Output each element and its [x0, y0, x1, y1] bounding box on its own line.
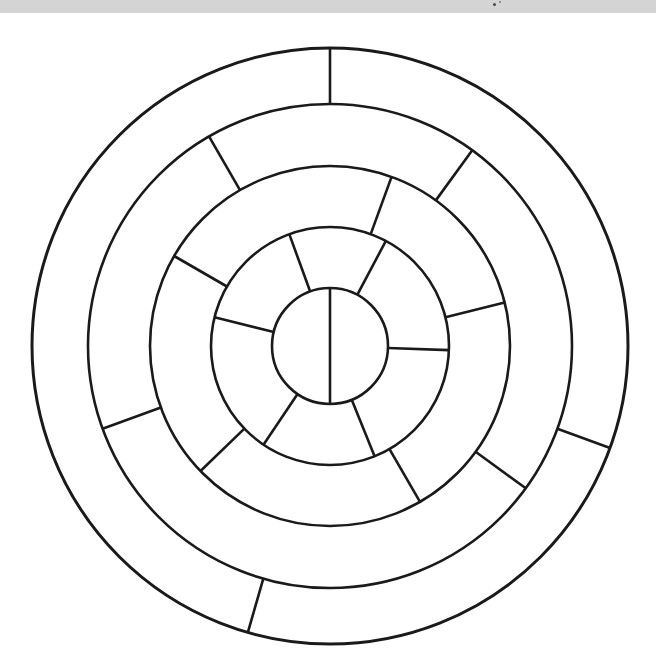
spoke-ring-4-2	[476, 452, 526, 488]
ring-diagram-container	[0, 13, 656, 667]
spoke-ring-3-1	[371, 177, 392, 234]
spoke-ring-2-6	[289, 234, 310, 291]
spoke-ring-2-5	[215, 317, 274, 332]
ring-spokes-group	[103, 48, 610, 632]
spoke-ring-4-3	[103, 408, 161, 429]
spoke-ring-5-outer-3	[248, 579, 263, 633]
spoke-ring-3-2	[445, 302, 504, 317]
spoke-ring-3-4	[201, 429, 245, 471]
spoke-ring-5-outer-2	[557, 429, 610, 448]
page-root	[0, 0, 656, 667]
spoke-ring-4-4	[209, 136, 240, 190]
spoke-ring-2-2	[388, 348, 449, 350]
spoke-ring-2-4	[263, 394, 297, 445]
spoke-ring-3-3	[390, 449, 421, 502]
band-speck-icon	[493, 3, 496, 6]
scanned-page-edge-band	[0, 0, 656, 13]
spoke-ring-4-1	[436, 150, 472, 200]
spoke-ring-2-1	[357, 241, 386, 295]
concentric-ring-diagram	[0, 13, 656, 667]
spoke-ring-3-5	[174, 256, 227, 287]
band-speck-secondary-icon	[499, 1, 501, 3]
spoke-ring-2-3	[352, 400, 375, 457]
